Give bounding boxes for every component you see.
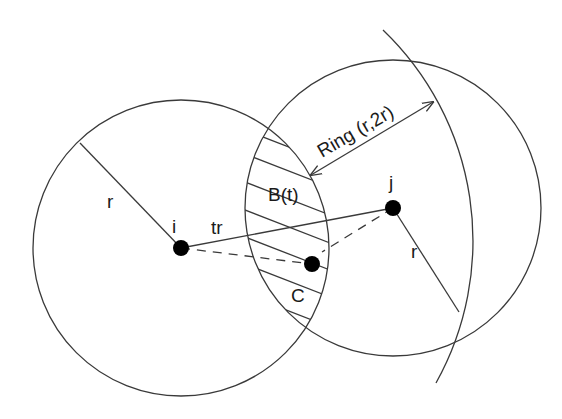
ring-intersection-diagram: r i tr B(t) C j r Ring (r,2r) <box>0 0 562 419</box>
label-radius-i: r <box>107 191 114 212</box>
label-radius-j: r <box>411 241 418 262</box>
label-region-b: B(t) <box>268 184 299 205</box>
label-region-c: C <box>291 285 305 306</box>
node-relay <box>304 256 320 272</box>
node-j <box>385 200 401 216</box>
radius-line-j <box>393 208 459 312</box>
label-tr: tr <box>211 217 223 238</box>
radius-line-i <box>80 143 181 248</box>
node-i <box>173 240 189 256</box>
label-node-i: i <box>172 216 176 237</box>
label-node-j: j <box>388 172 393 193</box>
